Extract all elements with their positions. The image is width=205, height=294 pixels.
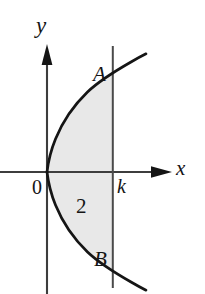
point-a-label: A [93, 64, 106, 85]
origin-label: 0 [32, 177, 42, 197]
vertical-line-k-label: k [117, 176, 126, 196]
parabola-region-figure: y x A B k 0 2 [0, 0, 205, 294]
y-axis-label: y [36, 14, 46, 37]
point-b-label: B [94, 249, 107, 270]
region-number-label: 2 [76, 196, 87, 217]
x-axis-label: x [176, 158, 185, 179]
x-axis-arrowhead [151, 166, 172, 177]
y-axis-arrowhead [42, 44, 53, 65]
